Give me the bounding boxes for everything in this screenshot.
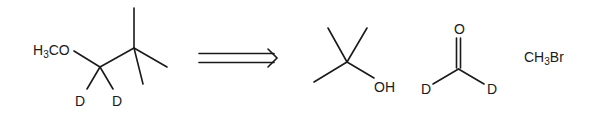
deuterium-left-label: D: [421, 81, 431, 97]
cq-methyl-right-bond: [134, 48, 167, 67]
tbu-methyl-left-bond: [314, 62, 347, 82]
precursor-bromomethane: CH3Br: [524, 49, 564, 67]
tbu-methyl-upleft-bond: [328, 28, 347, 62]
tbu-methyl-upright-bond: [347, 28, 367, 62]
ch2-cq-bond: [100, 48, 134, 67]
o-ch2-bond: [74, 51, 100, 67]
carbonyl-oxygen-label: O: [454, 21, 465, 37]
c-d-right-bond: [459, 69, 485, 84]
c-d-left-bond: [87, 67, 100, 89]
cq-methyl-down-bond: [134, 48, 143, 84]
retrosynthesis-scheme: H3CO D D OH O D D CH3Br: [0, 0, 598, 117]
ch3br-label: CH3Br: [524, 49, 564, 67]
deuterium-left-label: D: [75, 93, 85, 109]
precursor-tert-butanol: OH: [314, 28, 395, 95]
c-d-right-bond: [100, 67, 113, 89]
hydroxyl-label: OH: [374, 79, 395, 95]
arrowhead-icon: [268, 49, 277, 67]
retrosynthetic-arrow: [199, 49, 277, 67]
deuterium-right-label: D: [487, 81, 497, 97]
precursor-formaldehyde-d2: O D D: [421, 21, 497, 97]
deuterium-right-label: D: [112, 93, 122, 109]
tbu-c-o-bond: [347, 62, 374, 78]
target-molecule: H3CO D D: [33, 8, 167, 109]
methoxy-label: H3CO: [33, 42, 70, 60]
c-d-left-bond: [433, 69, 459, 84]
